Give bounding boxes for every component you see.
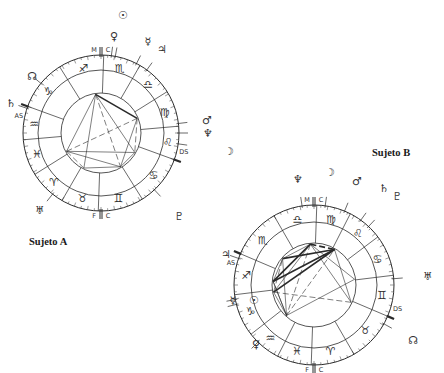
planet-position-tick (360, 213, 366, 222)
degree-tick (74, 60, 75, 64)
degree-tick (114, 206, 115, 210)
aspect-line (121, 118, 138, 166)
degree-tick (263, 224, 266, 227)
degree-tick (46, 78, 48, 80)
degree-tick (372, 334, 375, 337)
ic-label-c: C (106, 212, 111, 220)
degree-tick (56, 195, 57, 197)
sign-libra-icon: ♎ (143, 78, 153, 91)
degree-tick (165, 94, 168, 96)
house-cusp (315, 205, 316, 243)
planet-moon-icon: ☽ (325, 166, 335, 179)
astrology-charts-canvas: ♒♓♈♉♊♋♌♍♎♏♐♑MCFCASDS☉♀☿♃☊♄♂♆☽♅♇ ♐♑♒♓♈♉♊♋… (0, 0, 444, 373)
degree-tick (287, 210, 288, 214)
degree-tick (274, 351, 276, 354)
sign-cancer-icon: ♋ (149, 169, 159, 182)
degree-tick (133, 62, 134, 64)
aspect-line (96, 94, 135, 152)
degree-tick (245, 245, 248, 247)
planet-neptune-icon: ♆ (203, 127, 213, 140)
degree-tick (235, 271, 239, 272)
sign-virgo-icon: ♍ (160, 106, 170, 119)
sign-virgo-icon: ♍ (326, 213, 336, 226)
planet-venus-icon: ♀ (252, 338, 260, 351)
aspect-line (96, 94, 121, 166)
sign-leo-icon: ♌ (163, 136, 173, 149)
degree-tick (30, 100, 32, 101)
degree-tick (87, 206, 88, 210)
chart-sujeto-b: ♐♑♒♓♈♉♊♋♌♍♎♏MCFCASDS☽♆♂♄♇♃♅☿☉☊♀ (221, 166, 433, 373)
mc-label-c: C (106, 46, 111, 54)
degree-tick (241, 251, 243, 252)
degree-tick (253, 334, 256, 337)
degree-tick (287, 356, 288, 360)
sign-aries-icon: ♈ (326, 345, 336, 358)
degree-tick (268, 348, 269, 350)
degree-tick (253, 234, 256, 237)
sign-cancer-icon: ♋ (373, 253, 383, 266)
degree-tick (340, 356, 341, 360)
dsc-marker (387, 316, 394, 319)
subject-a-label: Sujeto A (29, 236, 67, 247)
degree-tick (257, 228, 259, 230)
aspect-line (335, 249, 352, 302)
degree-tick (239, 311, 243, 312)
degree-tick (28, 158, 32, 159)
house-cusp (23, 136, 61, 139)
dsc-marker (173, 159, 181, 162)
planet-position-tick (367, 220, 375, 228)
planet-north-node-icon: ☊ (408, 334, 418, 347)
degree-tick (68, 62, 69, 64)
degree-tick (280, 212, 281, 214)
aspect-line (287, 279, 355, 315)
aspect-line (274, 244, 311, 292)
degree-tick (149, 73, 152, 76)
house-cusp (335, 321, 354, 354)
degree-tick (377, 329, 379, 330)
sign-taurus-icon: ♉ (360, 324, 370, 337)
ic-label-f: F (92, 212, 96, 220)
degree-tick (300, 360, 301, 364)
sign-ring (251, 222, 377, 348)
planet-venus-icon: ♀ (110, 30, 118, 43)
degree-tick (358, 348, 359, 350)
degree-tick (138, 197, 140, 200)
planet-mercury-icon: ☿ (145, 35, 152, 48)
sign-sagittarius-icon: ♐ (241, 269, 251, 282)
degree-tick (165, 170, 168, 172)
subject-b-label: Sujeto B (372, 147, 410, 158)
sign-scorpio-icon: ♏ (258, 234, 268, 247)
sign-leo-icon: ♌ (353, 227, 363, 240)
house-cusp (141, 126, 179, 129)
degree-tick (384, 251, 386, 252)
degree-tick (133, 201, 134, 203)
ic-label-c: C (319, 366, 324, 373)
degree-tick (347, 355, 348, 357)
planet-jupiter-icon: ♃ (157, 43, 167, 56)
degree-tick (241, 318, 243, 319)
degree-tick (389, 271, 393, 272)
sign-gemini-icon: ♊ (377, 289, 387, 302)
planet-pluto-icon: ♇ (392, 190, 402, 203)
planet-pluto-icon: ♇ (174, 210, 184, 223)
degree-tick (169, 100, 171, 101)
planet-mercury-icon: ☿ (230, 294, 237, 307)
degree-tick (385, 258, 389, 259)
degree-tick (327, 206, 328, 210)
degree-tick (280, 355, 281, 357)
planet-saturn-icon: ♄ (379, 182, 389, 195)
planet-jupiter-icon: ♃ (221, 248, 231, 261)
degree-tick (158, 83, 161, 86)
degree-tick (248, 329, 250, 330)
degree-tick (33, 94, 36, 96)
degree-tick (154, 78, 156, 80)
degree-tick (37, 176, 39, 177)
sign-aries-icon: ♈ (49, 176, 59, 189)
synastry-charts-figure: ♒♓♈♉♊♋♌♍♎♏♐♑MCFCASDS☉♀☿♃☊♄♂♆☽♅♇ ♐♑♒♓♈♉♊♋… (0, 0, 444, 373)
mc-label-c: C (319, 196, 324, 204)
house-cusp (311, 327, 312, 365)
degree-tick (169, 165, 171, 166)
planet-north-node-icon: ☊ (27, 70, 37, 83)
planet-sun-icon: ☉ (249, 294, 259, 307)
degree-tick (380, 245, 383, 247)
